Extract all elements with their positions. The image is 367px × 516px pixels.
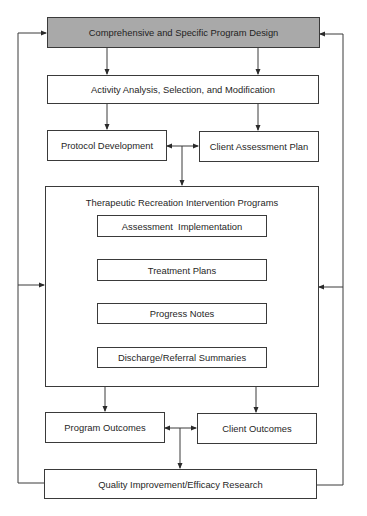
protocol-development-box: Protocol Development — [47, 130, 167, 161]
quality-improvement-box: Quality Improvement/Efficacy Research — [44, 469, 317, 499]
quality-improvement-label: Quality Improvement/Efficacy Research — [98, 479, 262, 490]
program-outcomes-label: Program Outcomes — [64, 422, 145, 433]
protocol-development-label: Protocol Development — [61, 140, 153, 151]
program-outcomes-box: Program Outcomes — [45, 412, 165, 443]
progress-notes-label: Progress Notes — [150, 308, 215, 319]
assessment-implementation-label: Assessment Implementation — [122, 221, 242, 232]
activity-analysis-box: Activity Analysis, Selection, and Modifi… — [47, 75, 319, 104]
treatment-plans-box: Treatment Plans — [97, 259, 267, 281]
progress-notes-box: Progress Notes — [97, 303, 267, 324]
program-design-label: Comprehensive and Specific Program Desig… — [89, 27, 279, 38]
tr-intervention-programs-title: Therapeutic Recreation Intervention Prog… — [46, 197, 318, 208]
program-design-box: Comprehensive and Specific Program Desig… — [47, 17, 320, 48]
client-outcomes-label: Client Outcomes — [222, 423, 291, 434]
treatment-plans-label: Treatment Plans — [148, 265, 216, 276]
discharge-summaries-label: Discharge/Referral Summaries — [118, 352, 246, 363]
activity-analysis-label: Activity Analysis, Selection, and Modifi… — [91, 84, 275, 95]
client-outcomes-box: Client Outcomes — [197, 413, 317, 444]
client-assessment-plan-label: Client Assessment Plan — [210, 141, 308, 152]
client-assessment-plan-box: Client Assessment Plan — [199, 131, 319, 162]
assessment-implementation-box: Assessment Implementation — [97, 215, 267, 237]
discharge-summaries-box: Discharge/Referral Summaries — [97, 347, 267, 368]
